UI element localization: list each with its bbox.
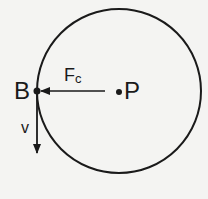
velocity-label: v xyxy=(21,120,29,136)
point-b-label: B xyxy=(14,79,30,103)
point-p-label: P xyxy=(124,79,140,103)
circular-motion-diagram: B P Fc v xyxy=(0,0,208,199)
centripetal-force-label: Fc xyxy=(64,66,82,85)
force-subscript: c xyxy=(75,71,82,86)
diagram-svg xyxy=(0,0,208,199)
point-b-dot xyxy=(34,88,41,95)
point-p-dot xyxy=(116,89,122,95)
force-symbol: F xyxy=(64,65,75,85)
